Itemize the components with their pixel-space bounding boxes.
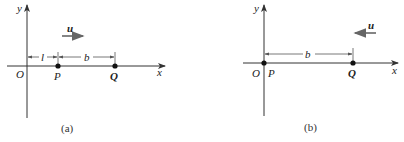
- point-q-label: Q: [110, 70, 118, 82]
- panel-a: y x O u l b P Q (a): [7, 2, 165, 135]
- y-axis-label: y: [253, 2, 259, 14]
- dimension-b-label: b: [84, 51, 90, 63]
- origin-label: O: [16, 68, 24, 80]
- point-q-label: Q: [348, 67, 356, 79]
- dimension-l-label: l: [41, 51, 44, 63]
- x-axis-label: x: [156, 66, 162, 78]
- point-q: [112, 63, 117, 68]
- point-q: [350, 60, 355, 65]
- panel-b: y x O u b P Q (b): [243, 2, 398, 134]
- x-axis-label: x: [391, 64, 397, 76]
- point-p: [55, 63, 60, 68]
- origin-label: O: [252, 67, 260, 79]
- point-p-label: P: [53, 70, 61, 82]
- velocity-label: u: [368, 19, 374, 31]
- velocity-label: u: [67, 22, 73, 34]
- panel-caption: (b): [304, 121, 317, 134]
- panel-caption: (a): [61, 122, 74, 135]
- diagram-canvas: y x O u l b P Q (a) y x O u: [0, 0, 404, 142]
- y-axis-label: y: [16, 2, 22, 14]
- dimension-b-label: b: [305, 48, 311, 60]
- point-p: [261, 60, 266, 65]
- point-p-label: P: [267, 67, 275, 79]
